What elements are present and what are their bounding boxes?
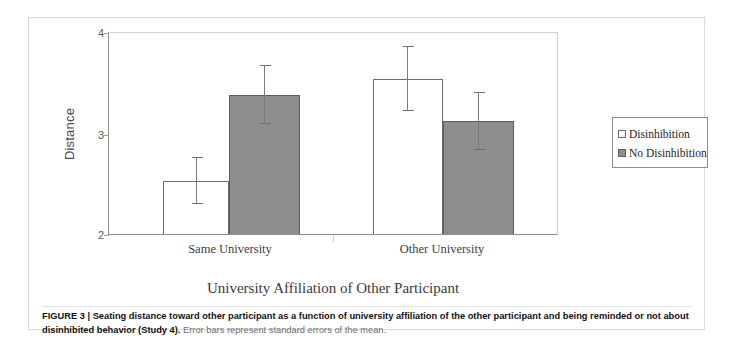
error-bar-same-university-disinhibition: [196, 158, 197, 203]
y-tick-mark-4: [104, 33, 109, 34]
legend: Disinhibition No Disinhibition: [612, 117, 708, 168]
figure-container: Distance 4 3 2: [28, 17, 705, 330]
x-axis-group-divider: [333, 235, 334, 242]
legend-item-no-disinhibition: No Disinhibition: [618, 147, 702, 159]
x-axis-label-same-university: Same University: [188, 242, 272, 257]
caption-divider: [42, 306, 692, 307]
bar-other-university-disinhibition: [373, 79, 443, 235]
axes-frame: 4 3 2: [108, 32, 558, 235]
plot-area: Distance 4 3 2: [29, 18, 706, 258]
y-tick-mark-2: [104, 235, 109, 236]
filled-square-icon: [618, 149, 626, 157]
y-tick-label-2: 2: [98, 229, 104, 241]
y-axis-title: Distance: [62, 108, 77, 160]
error-bar-other-university-no-disinhibition: [478, 93, 479, 150]
legend-label-disinhibition: Disinhibition: [629, 128, 690, 140]
legend-label-no-disinhibition: No Disinhibition: [629, 147, 707, 159]
open-square-icon: [618, 130, 626, 138]
y-tick-mark-3: [104, 135, 109, 136]
x-axis-label-other-university: Other University: [400, 242, 484, 257]
error-bar-other-university-disinhibition: [407, 47, 408, 110]
y-tick-label-4: 4: [98, 27, 104, 39]
caption-light-text: Error bars represent standard errors of …: [180, 325, 386, 335]
y-tick-label-3: 3: [98, 129, 104, 141]
legend-item-disinhibition: Disinhibition: [618, 128, 702, 140]
figure-caption: FIGURE 3 | Seating distance toward other…: [42, 310, 694, 337]
error-bar-same-university-no-disinhibition: [264, 66, 265, 123]
caption-figure-number: FIGURE 3 |: [42, 311, 93, 321]
x-axis-title: University Affiliation of Other Particip…: [207, 280, 459, 297]
